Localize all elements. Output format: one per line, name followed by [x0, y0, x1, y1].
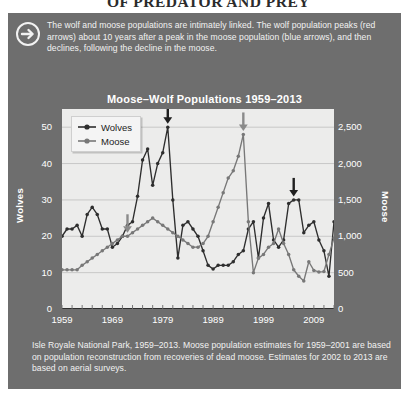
- x-tick-1989: 1989: [193, 314, 233, 325]
- x-tick-1969: 1969: [92, 314, 132, 325]
- y-tick-0: 0: [26, 303, 52, 314]
- moose-peak-arrow-2: [239, 112, 248, 131]
- chart-title: Moose–Wolf Populations 1959–2013: [8, 93, 401, 105]
- x-tick-2009: 2009: [294, 314, 334, 325]
- y-tick-40: 40: [26, 158, 52, 169]
- wolf-peak-arrow-2: [289, 178, 298, 197]
- y-tick-50: 50: [26, 121, 52, 132]
- legend-item-moose: Moose: [77, 134, 132, 148]
- y-tick-30: 30: [26, 194, 52, 205]
- y-tick-10: 10: [26, 267, 52, 278]
- circle-arrow-right-icon: [16, 22, 40, 46]
- x-tick-1999: 1999: [243, 314, 283, 325]
- legend-label-moose: Moose: [101, 136, 130, 147]
- y2-tick-500: 500: [338, 267, 378, 278]
- legend-marker-wolves: [77, 122, 97, 132]
- y-axis-label-moose: Moose: [380, 191, 391, 223]
- chart-footnote: Isle Royale National Park, 1959–2013. Mo…: [32, 340, 392, 375]
- infographic-root: OF PREDATOR AND PREY The wolf and moose …: [0, 0, 417, 397]
- y-tick-20: 20: [26, 230, 52, 241]
- callout-text: The wolf and moose populations are intim…: [47, 20, 394, 55]
- legend-marker-moose: [77, 136, 97, 146]
- y-axis-label-wolves: Wolves: [14, 188, 25, 223]
- y2-tick-2500: 2,500: [338, 121, 378, 132]
- x-tick-1979: 1979: [143, 314, 183, 325]
- callout: The wolf and moose populations are intim…: [16, 20, 394, 55]
- y2-tick-0: 0: [338, 303, 378, 314]
- x-tick-1959: 1959: [42, 314, 82, 325]
- legend-label-wolves: Wolves: [101, 122, 132, 133]
- info-panel: The wolf and moose populations are intim…: [8, 13, 401, 389]
- legend-item-wolves: Wolves: [77, 120, 132, 134]
- chart-legend: Wolves Moose: [71, 116, 141, 152]
- y2-tick-1500: 1,500: [338, 194, 378, 205]
- y2-tick-2000: 2,000: [338, 158, 378, 169]
- page-title: OF PREDATOR AND PREY: [0, 0, 417, 7]
- wolf-peak-arrow-1: [163, 109, 172, 124]
- y2-tick-1000: 1,000: [338, 230, 378, 241]
